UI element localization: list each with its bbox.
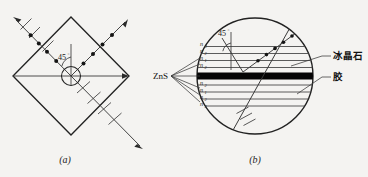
coating-layer-lines-bottom [197, 85, 313, 106]
index-label-bottom-3: n [200, 100, 203, 107]
callout-leader-glue [297, 77, 331, 94]
panel-a-caption: (a) [59, 154, 71, 166]
index-label-top-2: n [200, 54, 203, 61]
angle-label-b: 45 [218, 29, 226, 38]
panel-b-caption: (b) [249, 154, 261, 166]
reflected-ray-b [222, 38, 243, 72]
figure-canvas: 45 ° (a) [0, 0, 368, 177]
reflected-ray-line [71, 22, 125, 76]
callout-label-cryolite: 冰晶石 [333, 50, 363, 61]
refractive-index-labels-bottom: n 2 n 1 n 2 n 3 [200, 79, 207, 109]
diagonal-ray-ticks [237, 107, 256, 126]
panel-a: 45 ° (a) [13, 17, 143, 166]
figure-svg: 45 ° (a) [0, 0, 368, 177]
transmitted-ray-line [71, 76, 140, 146]
index-sub-top-2: 1 [204, 58, 206, 63]
index-label-bottom-2: n [200, 93, 203, 100]
refractive-index-labels-top: n 3 n 2 n 1 n 2 [200, 40, 207, 70]
index-label-bottom-1: n [200, 86, 203, 93]
index-label-top-1: n [200, 47, 203, 54]
index-label-bottom-0: n [200, 79, 203, 86]
angle-label-a: 45 [58, 53, 66, 62]
index-label-top-0: n [200, 40, 203, 47]
callout-label-glue: 胶 [333, 71, 343, 82]
zns-leader-lines [171, 58, 200, 102]
angle-unit-b: ° [228, 28, 230, 33]
transmitted-ray-polarization-ticks [77, 82, 122, 125]
angle-unit-a: ° [68, 52, 70, 57]
index-label-top-3: n [200, 61, 203, 68]
incident-ray-polarization-ticks [21, 19, 54, 52]
central-black-band [197, 73, 313, 80]
panel-b: 45 ° n 3 n 2 n 1 n 2 n 2 n 1 n 2 [153, 18, 363, 166]
index-sub-bottom-1: 1 [204, 90, 206, 95]
incident-ray-line [16, 20, 71, 76]
zns-material-label: ZnS [153, 71, 168, 81]
